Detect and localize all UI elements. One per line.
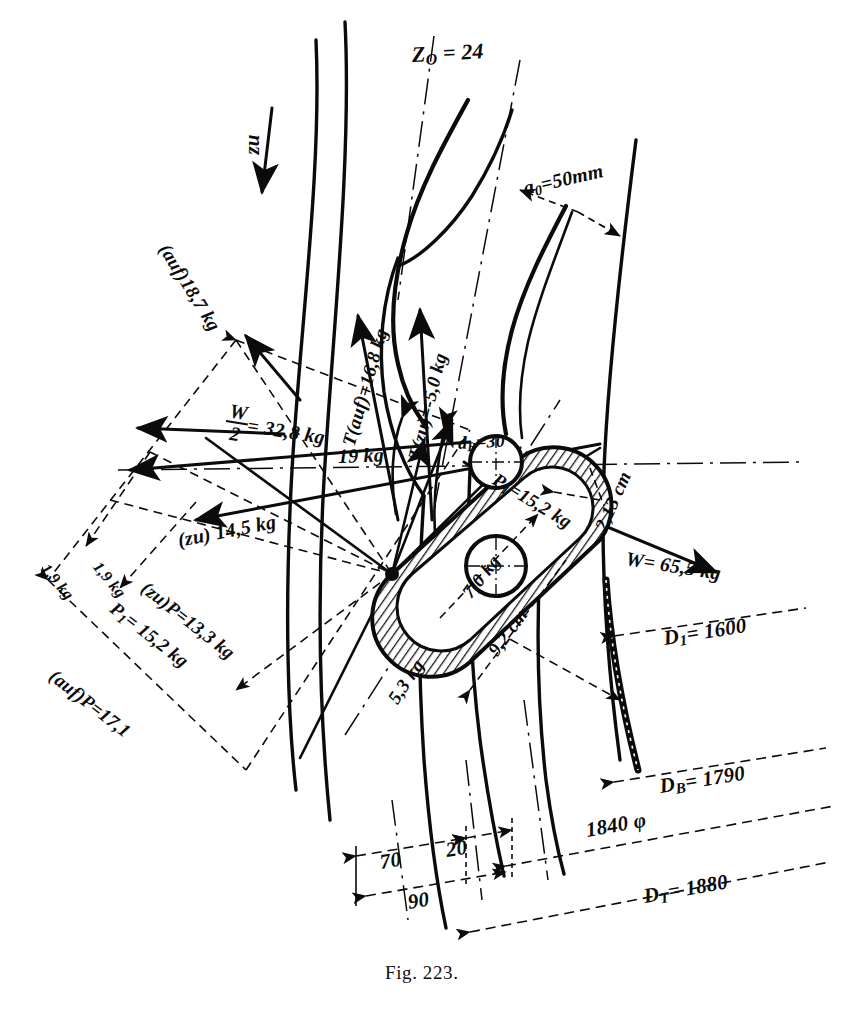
dim-arrow-p1-left bbox=[236, 574, 392, 690]
vertical-centerline-a bbox=[398, 36, 434, 300]
vector-zu-top bbox=[262, 108, 272, 192]
blade-curve-center-lower bbox=[538, 560, 564, 874]
label-z0: ZO = 24 bbox=[411, 40, 484, 68]
dim-20 bbox=[466, 830, 512, 838]
figure-223-drawing: ZO = 24 zu a0=50mm (auf)18,7 kg W 2 = 32… bbox=[0, 0, 843, 1028]
label-d-b: dB=30 bbox=[457, 432, 505, 455]
label-dim-20: 20 bbox=[444, 837, 468, 861]
centerline-lower-c bbox=[524, 700, 548, 880]
label-dim-90: 90 bbox=[406, 889, 430, 913]
dim-box-bottom bbox=[48, 580, 246, 770]
pivot-point bbox=[385, 567, 399, 581]
dim-arrow-19a bbox=[86, 452, 150, 546]
label-19kg: 19 kg bbox=[338, 444, 385, 466]
label-dim-70: 70 bbox=[378, 849, 402, 873]
figure-caption: Fig. 223. bbox=[385, 962, 459, 984]
label-zu-arrow: zu bbox=[242, 134, 263, 154]
